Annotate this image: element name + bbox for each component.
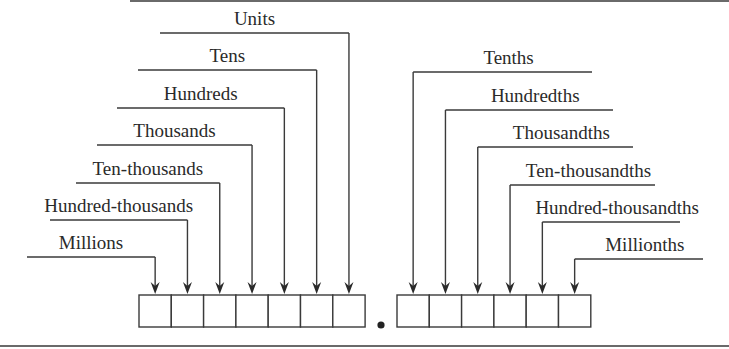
digit-box-hundred-thousands [171,295,203,327]
digit-box-millions [139,295,171,327]
label-units: Units [234,8,275,29]
digit-box-units [333,295,365,327]
label-ten-thousandths: Ten-thousandths [526,160,651,181]
digit-box-tenths [397,295,429,327]
decimal-point [377,321,384,328]
digit-box-hundredths [429,295,461,327]
label-thousands: Thousands [133,120,215,141]
label-hundreds: Hundreds [164,83,238,104]
label-millionths: Millionths [605,234,684,255]
label-tenths: Tenths [483,47,533,68]
digit-box-ten-thousandths [494,295,526,327]
label-hundredths: Hundredths [491,85,580,106]
decimal-places-group: TenthsHundredthsThousandthsTen-thousandt… [397,47,703,327]
label-thousandths: Thousandths [513,122,610,143]
digit-box-ten-thousands [204,295,236,327]
label-hundred-thousandths: Hundred-thousandths [535,197,699,218]
label-tens: Tens [210,45,246,66]
place-value-diagram: UnitsTensHundredsThousandsTen-thousandsH… [0,0,729,349]
digit-box-hundreds [268,295,300,327]
integer-places-group: UnitsTensHundredsThousandsTen-thousandsH… [27,8,365,327]
digit-box-thousandths [462,295,494,327]
label-ten-thousands: Ten-thousands [93,158,204,179]
digit-box-hundred-thousandths [526,295,558,327]
digit-box-millionths [559,295,591,327]
label-hundred-thousands: Hundred-thousands [44,195,193,216]
digit-box-thousands [236,295,268,327]
digit-box-tens [301,295,333,327]
label-millions: Millions [59,232,123,253]
